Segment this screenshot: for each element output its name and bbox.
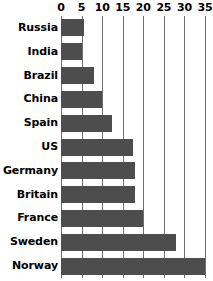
bar [61,210,143,227]
bar [61,67,94,84]
x-tick-label: 0 [57,1,64,14]
x-tick-label: 5 [78,1,85,14]
bar [61,162,135,179]
bar-chart: 05101520253035 RussiaIndiaBrazilChinaSpa… [0,0,213,281]
bar-row [61,43,205,60]
x-axis-tick-labels: 05101520253035 [0,0,213,16]
bar [61,91,102,108]
bars-layer [61,16,205,278]
x-tick-label: 15 [115,1,130,14]
bar-row [61,19,205,36]
category-label: Norway [12,259,58,272]
category-label: Sweden [10,235,58,248]
bar [61,234,176,251]
x-tick-label: 35 [198,1,213,14]
category-label: Brazil [23,69,58,82]
bar-row [61,162,205,179]
bar-row [61,234,205,251]
bar-row [61,186,205,203]
category-label: Germany [3,164,58,177]
bar [61,19,84,36]
bar-row [61,115,205,132]
bar-row [61,139,205,156]
bar-row [61,91,205,108]
x-tick-label: 20 [136,1,151,14]
category-label: France [17,211,58,224]
bar [61,115,112,132]
category-label: Spain [24,116,58,129]
x-tick-label: 30 [177,1,192,14]
category-label: China [24,92,58,105]
category-label: US [41,140,58,153]
category-axis-labels: RussiaIndiaBrazilChinaSpainUSGermanyBrit… [0,16,58,278]
category-label: Britain [17,188,58,201]
bar-row [61,210,205,227]
category-label: India [28,45,59,58]
bar [61,258,205,275]
gridline [205,16,206,278]
category-label: Russia [18,21,58,34]
bar-row [61,67,205,84]
x-tick-label: 10 [95,1,110,14]
bar [61,43,82,60]
bar [61,139,133,156]
bar [61,186,135,203]
x-tick-label: 25 [156,1,171,14]
bar-row [61,258,205,275]
